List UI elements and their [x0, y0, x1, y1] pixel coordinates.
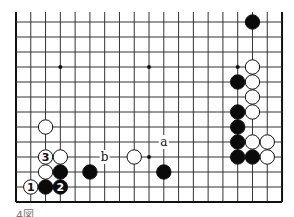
letter-mark-a: a [160, 135, 167, 149]
black-stone-icon [231, 120, 245, 134]
white-stone-icon [38, 165, 52, 179]
diagram-caption: 4図 [16, 210, 34, 217]
white-stone-icon [245, 75, 259, 89]
black-stone-icon [53, 165, 67, 179]
white-stone-icon [260, 150, 274, 164]
star-point-icon [147, 65, 151, 69]
white-stone-icon [245, 135, 259, 149]
letter-mark-b: b [101, 150, 109, 164]
white-stone-icon [127, 150, 141, 164]
star-point-icon [58, 65, 62, 69]
white-stone-icon [245, 105, 259, 119]
star-point-icon [147, 155, 151, 159]
white-stone-icon [53, 150, 67, 164]
white-stone-icon [245, 90, 259, 104]
black-stone-icon [231, 105, 245, 119]
black-stone-icon: 2 [53, 180, 67, 194]
move-number-label: 2 [57, 181, 65, 194]
move-number-label: 1 [27, 181, 35, 194]
white-stone-icon [38, 120, 52, 134]
black-stone-icon [245, 150, 259, 164]
black-stone-icon [231, 135, 245, 149]
white-stone-icon [245, 60, 259, 74]
black-stone-icon [231, 75, 245, 89]
white-stone-icon [260, 135, 274, 149]
black-stone-icon [83, 165, 97, 179]
go-board-diagram: ab 312 [0, 0, 294, 217]
black-stone-icon [245, 15, 259, 29]
white-stone-icon: 1 [24, 180, 38, 194]
star-point-icon [236, 65, 240, 69]
move-number-label: 3 [42, 151, 50, 164]
black-stone-icon [38, 180, 52, 194]
white-stone-icon: 3 [38, 150, 52, 164]
black-stone-icon [157, 165, 171, 179]
black-stone-icon [231, 150, 245, 164]
